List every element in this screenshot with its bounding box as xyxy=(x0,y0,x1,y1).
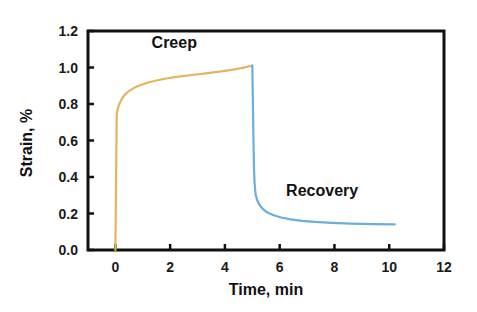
y-tick-label: 0.2 xyxy=(59,206,79,222)
x-tick-label: 2 xyxy=(166,259,174,275)
x-tick-label: 6 xyxy=(276,259,284,275)
y-tick-label: 0.6 xyxy=(59,133,79,149)
y-tick-label: 1.2 xyxy=(59,23,79,39)
y-tick-label: 0.0 xyxy=(59,242,79,258)
y-axis-title: Strain, % xyxy=(18,109,35,177)
x-tick-label: 12 xyxy=(436,259,452,275)
creep-recovery-chart-figure: 024681012 0.00.20.40.60.81.01.2 CreepRec… xyxy=(0,0,477,312)
annotation-recovery: Recovery xyxy=(286,182,358,199)
x-tick-label: 4 xyxy=(221,259,229,275)
y-tick-label: 0.8 xyxy=(59,96,79,112)
annotation-creep: Creep xyxy=(152,34,198,51)
plot-area-frame xyxy=(88,31,444,250)
y-tick-label: 0.4 xyxy=(59,169,79,185)
y-tick-label: 1.0 xyxy=(59,60,79,76)
x-tick-label: 10 xyxy=(381,259,397,275)
chart-canvas: 024681012 0.00.20.40.60.81.01.2 CreepRec… xyxy=(0,0,477,312)
x-tick-label: 8 xyxy=(331,259,339,275)
x-axis-title: Time, min xyxy=(229,281,303,298)
x-tick-label: 0 xyxy=(111,259,119,275)
